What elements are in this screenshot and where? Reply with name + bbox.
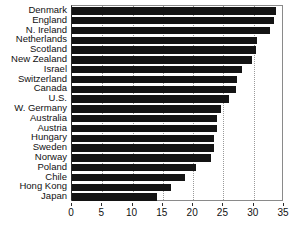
bar: [72, 115, 217, 122]
category-label: Poland: [37, 162, 67, 172]
category-label: Israel: [44, 64, 67, 74]
category-label: W. Germany: [14, 103, 67, 113]
bar: [72, 193, 157, 200]
bar: [72, 17, 274, 24]
bar: [72, 56, 252, 63]
x-tick-0: [71, 203, 72, 206]
category-label: New Zealand: [11, 54, 67, 64]
bar: [72, 76, 237, 83]
x-tick-label: 25: [217, 207, 228, 219]
value-axis-labels: 05101520253035: [0, 203, 294, 219]
x-tick-35: [283, 203, 284, 206]
bar: [72, 125, 217, 132]
category-axis-labels: DenmarkEnglandN. IrelandNetherlandsScotl…: [0, 5, 69, 201]
x-tick-label: 20: [187, 207, 198, 219]
category-label: Australia: [30, 113, 67, 123]
x-tick-label: 10: [126, 207, 137, 219]
bar: [72, 95, 229, 102]
x-tick-label: 35: [277, 207, 288, 219]
x-tick-10: [132, 203, 133, 206]
bar: [72, 174, 185, 181]
x-tick-label: 15: [156, 207, 167, 219]
x-tick-25: [222, 203, 223, 206]
bar: [72, 154, 211, 161]
bar: [72, 27, 270, 34]
category-label: England: [32, 15, 67, 25]
bar-series: [72, 6, 282, 200]
bar: [72, 105, 221, 112]
bar: [72, 86, 236, 93]
bar: [72, 66, 242, 73]
bar: [72, 164, 196, 171]
category-label: Denmark: [28, 5, 67, 15]
category-label: Norway: [35, 152, 67, 162]
x-tick-label: 0: [68, 207, 74, 219]
x-tick-30: [253, 203, 254, 206]
x-tick-label: 30: [247, 207, 258, 219]
x-tick-5: [101, 203, 102, 206]
bar: [72, 135, 214, 142]
x-tick-20: [192, 203, 193, 206]
bar: [72, 184, 171, 191]
x-tick-label: 5: [99, 207, 105, 219]
bar: [72, 37, 257, 44]
x-tick-15: [162, 203, 163, 206]
bar: [72, 144, 214, 151]
bar: [72, 7, 276, 14]
bar: [72, 46, 256, 53]
plot-area: [71, 5, 283, 201]
bar-chart: DenmarkEnglandN. IrelandNetherlandsScotl…: [0, 0, 294, 230]
category-label: Japan: [41, 191, 67, 201]
